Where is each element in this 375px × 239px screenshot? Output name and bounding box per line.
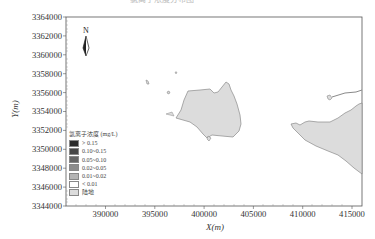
y-tick-label: 3352000: [4, 125, 62, 135]
x-tick-label: 415000: [327, 209, 375, 219]
y-tick-label: 3346000: [4, 182, 62, 192]
x-tick-label: 405000: [228, 209, 278, 219]
legend-swatch: [69, 181, 79, 188]
x-axis-label: X(m): [195, 222, 235, 232]
legend-label: 0.01~0.02: [82, 172, 106, 180]
legend: 氯离子浓度 (mg/L) > 0.15 0.10~0.15 0.05~0.10 …: [69, 130, 118, 197]
y-tick-label: 3348000: [4, 163, 62, 173]
legend-swatch: [69, 173, 79, 180]
legend-label: 0.05~0.10: [82, 156, 106, 164]
islet: [167, 91, 170, 94]
x-tick-label: 400000: [179, 209, 229, 219]
legend-item: 0.05~0.10: [69, 156, 118, 164]
legend-item: 0.01~0.02: [69, 172, 118, 180]
y-axis-label: Y(m): [10, 97, 20, 121]
y-tick-label: 3360000: [4, 50, 62, 60]
x-tick-label: 410000: [278, 209, 328, 219]
legend-swatch: [69, 164, 79, 171]
legend-item: 0.02~0.05: [69, 164, 118, 172]
legend-label: 0.10~0.15: [82, 147, 106, 155]
x-tick-label: 395000: [130, 209, 180, 219]
legend-label: < 0.01: [82, 180, 97, 188]
y-tick-label: 3358000: [4, 69, 62, 79]
y-tick-label: 3362000: [4, 31, 62, 41]
y-axis-label-text: Y(m): [10, 100, 20, 118]
x-tick-label: 390000: [81, 209, 131, 219]
legend-swatch: [69, 189, 79, 196]
north-arrow-icon: [80, 28, 92, 58]
legend-swatch: [69, 148, 79, 155]
legend-item: < 0.01: [69, 180, 118, 188]
legend-item: > 0.15: [69, 139, 118, 147]
legend-swatch: [69, 156, 79, 163]
legend-label: 陆地: [82, 188, 94, 196]
y-tick-label: 3344000: [4, 201, 62, 211]
x-axis-label-text: X(m): [206, 222, 224, 232]
legend-item: 0.10~0.15: [69, 147, 118, 155]
legend-item: 陆地: [69, 188, 118, 196]
y-axis-ticks: [63, 17, 66, 206]
y-tick-label: 3350000: [4, 144, 62, 154]
y-tick-label: 3364000: [4, 12, 62, 22]
legend-swatch: [69, 140, 79, 147]
legend-title: 氯离子浓度 (mg/L): [69, 130, 118, 138]
legend-label: 0.02~0.05: [82, 164, 106, 172]
legend-label: > 0.15: [82, 139, 97, 147]
